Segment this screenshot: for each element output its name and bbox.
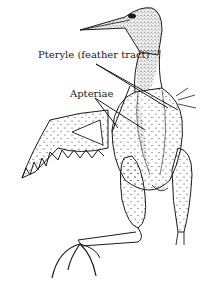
eye [128, 14, 136, 19]
left-leg [52, 156, 146, 278]
pteryle-label: Pteryle (feather tract) [38, 50, 150, 60]
diagram-canvas: Pteryle (feather tract) Apteriae [0, 0, 205, 283]
wing [22, 110, 108, 178]
right-leg [172, 148, 192, 245]
head [80, 8, 162, 55]
bird-illustration [0, 0, 205, 283]
apteriae-label: Apteriae [70, 89, 113, 99]
